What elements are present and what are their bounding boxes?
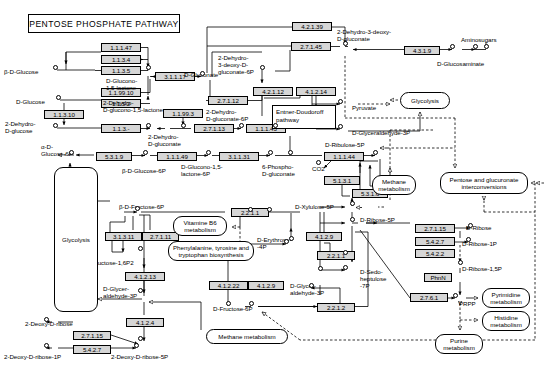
enzyme-box-ec-phnn[interactable]: PhnN xyxy=(424,273,452,282)
compound-node[interactable] xyxy=(53,65,58,70)
enzyme-box-ec-5-1-3-1[interactable]: 5.1.3.1 xyxy=(324,176,360,185)
enzyme-box-ec-4-1-2-4[interactable]: 4.1.2.4 xyxy=(126,318,164,327)
compound-node[interactable] xyxy=(268,150,273,155)
compound-node[interactable] xyxy=(484,44,489,49)
enzyme-box-ec-1-1-1-44[interactable]: 1.1.1.44 xyxy=(324,152,364,161)
compound-node[interactable] xyxy=(338,99,343,104)
enzyme-box-ec-2-7-1-12[interactable]: 2.7.1.12 xyxy=(208,96,248,105)
enzyme-box-ec-1-1-1-49[interactable]: 1.1.1.49 xyxy=(157,152,197,161)
enzyme-box-ec-4-1-2-9-a[interactable]: 4.1.2.9 xyxy=(248,281,284,290)
compound-node[interactable] xyxy=(284,239,289,244)
compound-node[interactable] xyxy=(143,150,148,155)
compound-node[interactable] xyxy=(206,150,211,155)
compound-label-d-ribose-5p: D-Ribose-5P xyxy=(360,216,395,223)
compound-node[interactable] xyxy=(200,71,205,76)
compound-label-d-fructose-6p: D-Fructose-6P xyxy=(213,305,253,312)
enzyme-box-ec-4-2-1-39[interactable]: 4.2.1.39 xyxy=(292,22,332,31)
compound-node[interactable] xyxy=(453,293,458,298)
compound-label-2-deoxy-d-ribose-1p: 2-Deoxy-D-ribose-1P xyxy=(4,353,61,360)
compound-node[interactable] xyxy=(338,124,343,129)
compound-node[interactable] xyxy=(318,266,323,271)
compound-node[interactable] xyxy=(309,283,314,288)
compound-node[interactable] xyxy=(138,288,143,293)
enzyme-box-ec-1-1-1-47[interactable]: 1.1.1.47 xyxy=(101,43,141,52)
compound-node[interactable] xyxy=(458,260,463,265)
compound-node[interactable] xyxy=(450,44,455,49)
map-link-purine-metabolism[interactable]: Purinemetabolism xyxy=(435,334,483,354)
enzyme-box-ec-2-2-1-1-b[interactable]: 2.2.1.1 xyxy=(317,251,355,260)
compound-label-d-glucose: D-Glucose xyxy=(16,98,45,105)
compound-node[interactable] xyxy=(135,206,140,211)
enzyme-box-ec-2-7-6-1[interactable]: 2.7.6.1 xyxy=(410,293,448,302)
compound-node[interactable] xyxy=(267,207,272,212)
compound-node[interactable] xyxy=(249,301,254,306)
compound-node[interactable] xyxy=(146,65,151,70)
compound-node[interactable] xyxy=(146,123,151,128)
map-link-phenylalanine-tyrosine-tryptophan[interactable]: Phenylalanine, tyrosine andtryptophan bi… xyxy=(168,241,254,261)
compound-label-6-phospho-d-gluconate: 6-Phospho-D-gluconate xyxy=(262,163,295,177)
compound-label-beta-d-glucose-6p: β-D-Glucose-6P xyxy=(122,167,166,174)
compound-node[interactable] xyxy=(350,201,355,206)
enzyme-box-ec-2-2-1-2[interactable]: 2.2.1.2 xyxy=(317,303,355,312)
compound-node[interactable] xyxy=(138,336,143,341)
compound-node[interactable] xyxy=(350,217,355,222)
enzyme-box-ec-4-1-2-9-b[interactable]: 4.1.2.9 xyxy=(306,232,342,241)
enzyme-box-ec-3-1-3-11[interactable]: 3.1.3.11 xyxy=(105,232,142,241)
enzyme-box-ec-2-7-1-13[interactable]: 2.7.1.13 xyxy=(194,124,234,133)
compound-node[interactable] xyxy=(69,150,74,155)
compound-label-2-dehydro-3-deoxy-d-gluconate-6p: 2-Dehydro-3-deoxy-D-gluconate-6P xyxy=(218,54,254,75)
compound-node[interactable] xyxy=(53,123,58,128)
enzyme-box-ec-1-1-3-10[interactable]: 1.1.3.10 xyxy=(44,110,84,119)
map-link-glycolysis-left[interactable]: Glycolysis xyxy=(54,167,98,312)
enzyme-box-ec-4-1-2-22[interactable]: 4.1.2.22 xyxy=(209,281,248,290)
map-link-methane-metabolism-mid[interactable]: Methanemetabolism xyxy=(372,175,416,195)
enzyme-box-ec-1-1-3-[interactable]: 1.1.3.- xyxy=(101,124,141,133)
enzyme-box-ec-4-2-1-12[interactable]: 4.2.1.12 xyxy=(253,87,293,96)
enzyme-box-ec-1-1-99-3[interactable]: 1.1.99.3 xyxy=(163,109,203,118)
map-link-methane-metabolism-bottom[interactable]: Methane metabolism xyxy=(206,329,288,344)
compound-node[interactable] xyxy=(239,123,244,128)
compound-node[interactable] xyxy=(288,150,293,155)
map-link-pyrimidine-metabolism[interactable]: Pyrimidinemetabolism xyxy=(482,288,530,308)
map-link-pentose-glucuronate[interactable]: Pentose and glucuronateinterconversions xyxy=(440,172,528,194)
compound-node[interactable] xyxy=(373,150,378,155)
compound-label-co2: CO2 xyxy=(312,165,325,172)
enzyme-box-ec-4-3-1-9[interactable]: 4.3.1.9 xyxy=(404,46,440,55)
compound-node[interactable] xyxy=(343,265,348,270)
compound-node[interactable] xyxy=(343,250,348,255)
enzyme-box-ec-2-7-1-15[interactable]: 2.7.1.15 xyxy=(73,331,111,340)
compound-node[interactable] xyxy=(44,317,49,322)
map-link-histidine-metabolism[interactable]: Histidinemetabolism xyxy=(482,311,530,331)
compound-node[interactable] xyxy=(260,65,265,70)
enzyme-box-ec-5-3-1-9-a[interactable]: 5.3.1.9 xyxy=(96,152,132,161)
compound-node[interactable] xyxy=(248,207,253,212)
compound-node[interactable] xyxy=(343,41,348,46)
enzyme-box-ec-1-1-3-5[interactable]: 1.1.3.5 xyxy=(101,66,141,75)
compound-node[interactable] xyxy=(181,123,186,128)
compound-node[interactable] xyxy=(273,123,278,128)
enzyme-box-ec-4-1-2-14[interactable]: 4.1.2.14 xyxy=(296,87,336,96)
enzyme-box-ec-4-1-2-13[interactable]: 4.1.2.13 xyxy=(125,272,165,281)
enzyme-box-ec-5-4-2-7[interactable]: 5.4.2.7 xyxy=(73,345,111,354)
enzyme-box-ec-5-4-2-7-r[interactable]: 5.4.2.7 xyxy=(415,237,455,246)
enzyme-box-ec-2-7-1-11[interactable]: 2.7.1.11 xyxy=(142,232,179,241)
enzyme-box-ec-3-1-1-31[interactable]: 3.1.1.31 xyxy=(219,152,259,161)
enzyme-box-ec-1-1-3-4[interactable]: 1.1.3.4 xyxy=(101,55,141,64)
compound-node[interactable] xyxy=(466,237,471,242)
compound-node[interactable] xyxy=(468,223,473,228)
map-link-vitamine-b6-metabolism[interactable]: Vitamine B6metabolism xyxy=(173,216,227,236)
enzyme-box-ec-5-4-2-2[interactable]: 5.4.2.2 xyxy=(415,249,455,258)
enzyme-box-ec-2-7-1-45[interactable]: 2.7.1.45 xyxy=(291,42,331,51)
compound-node[interactable] xyxy=(138,246,143,251)
compound-node[interactable] xyxy=(289,236,294,241)
compound-node[interactable] xyxy=(316,160,321,165)
enzyme-box-ec-2-7-1-15-r[interactable]: 2.7.1.15 xyxy=(415,224,455,233)
compound-node[interactable] xyxy=(134,343,139,348)
compound-node[interactable] xyxy=(44,343,49,348)
compound-node[interactable] xyxy=(226,301,231,306)
compound-label-2-deoxy-d-ribose-5p: 2-Deoxy-D-ribose-5P xyxy=(111,353,168,360)
compound-node[interactable] xyxy=(473,44,478,49)
compound-node[interactable] xyxy=(56,95,61,100)
map-link-glycolysis-right[interactable]: Glycolysis xyxy=(400,92,450,109)
compound-label-2-dehydro-d-gluconate: 2-Dehydro-D-gluconate xyxy=(148,133,181,147)
